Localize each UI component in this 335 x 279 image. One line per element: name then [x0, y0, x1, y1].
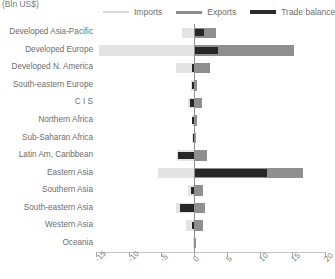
x-axis-tick-label: 10	[258, 252, 270, 264]
x-axis-tick-label: -5	[159, 253, 170, 264]
legend-item-imports[interactable]: Imports	[103, 8, 162, 17]
legend-label-trade-balance: Trade balance	[281, 8, 335, 17]
bar-trade-balance	[194, 29, 204, 36]
legend-item-trade-balance[interactable]: Trade balance	[250, 8, 335, 17]
y-axis-label: Southern Asia	[42, 186, 93, 194]
bar-imports	[158, 168, 194, 179]
y-axis-label: Western Asia	[45, 221, 93, 229]
bar-row	[96, 129, 325, 147]
y-axis-label: Eastern Asia	[47, 169, 93, 177]
bar-imports	[99, 45, 195, 56]
y-axis-label: Oceania	[63, 239, 94, 247]
bar-trade-balance	[194, 169, 267, 176]
bar-row	[96, 217, 325, 235]
legend-swatch-trade-balance-icon	[250, 10, 276, 14]
legend-swatch-exports-icon	[176, 11, 202, 14]
bar-row	[96, 77, 325, 95]
bar-exports	[194, 185, 203, 196]
y-axis-label: C I S	[75, 98, 93, 106]
y-axis-label: Northern Africa	[38, 116, 93, 124]
y-axis-label: Developed N. America	[12, 63, 93, 71]
legend-label-imports: Imports	[134, 8, 162, 17]
bar-row	[96, 234, 325, 252]
bar-rows	[96, 24, 325, 252]
x-axis-tick-label: 15	[290, 252, 302, 264]
legend-item-exports[interactable]: Exports	[176, 8, 236, 17]
plot-area	[96, 24, 325, 252]
bar-exports	[194, 150, 206, 161]
bar-row	[96, 147, 325, 165]
y-axis-label: Latin Am, Caribbean	[19, 151, 93, 159]
zero-axis-line	[194, 24, 195, 252]
y-axis-label: Developed Asia-Pacific	[9, 28, 93, 36]
bar-row	[96, 94, 325, 112]
bar-row	[96, 42, 325, 60]
bar-row	[96, 59, 325, 77]
bar-exports	[194, 98, 202, 109]
chart-legend: Imports Exports Trade balance	[103, 8, 335, 17]
x-axis-tick-label: 20	[323, 252, 335, 264]
x-axis-tick-label: 5	[225, 255, 234, 264]
bar-trade-balance	[180, 204, 194, 211]
bar-exports	[194, 203, 204, 214]
bar-row	[96, 24, 325, 42]
legend-swatch-imports-icon	[103, 11, 129, 13]
legend-label-exports: Exports	[207, 8, 236, 17]
x-axis-tick-label: 0	[192, 255, 201, 264]
units-label: (Bln US$)	[2, 0, 39, 9]
y-axis-label: South-eastern Asia	[24, 204, 93, 212]
bar-row	[96, 164, 325, 182]
bar-trade-balance	[178, 152, 194, 159]
y-axis-category-labels: Developed Asia-PacificDeveloped EuropeDe…	[0, 24, 93, 252]
bar-trade-balance	[194, 47, 218, 54]
y-axis-label: Sub-Saharan Africa	[22, 134, 93, 142]
bar-exports	[194, 63, 210, 74]
bar-imports	[182, 28, 194, 39]
bar-row	[96, 199, 325, 217]
bar-row	[96, 182, 325, 200]
bar-row	[96, 112, 325, 130]
y-axis-label: Developed Europe	[25, 46, 93, 54]
bar-exports	[194, 220, 203, 231]
y-axis-label: South-eastern Europe	[13, 81, 93, 89]
